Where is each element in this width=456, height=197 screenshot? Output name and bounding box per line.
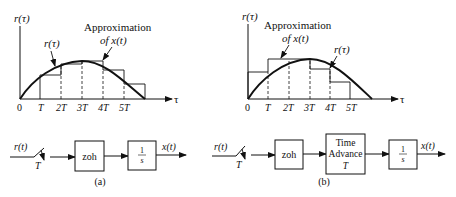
sampler-arrow [242, 149, 245, 159]
tick-0: 0 [245, 102, 250, 113]
input-label: r(t) [14, 141, 28, 153]
time-advance-line1: Time [336, 138, 356, 148]
diagram-canvas: r(τ) τ 0 T 2T 3T 4T 5T r(τ) Approximatio… [0, 0, 456, 197]
approx-label-line2: of x(t) [100, 34, 127, 47]
x-axis-label: τ [174, 93, 179, 105]
approx-label-arrow [103, 47, 112, 60]
panel-b-block-diagram: r(t) T zoh Time Advance T 1 s x(t) (b) [212, 134, 445, 188]
sample-period-label: T [35, 160, 42, 171]
approx-label-line2: of x(t) [282, 32, 309, 45]
approx-label-line1: Approximation [264, 19, 332, 31]
approx-label-arrow [281, 45, 289, 58]
tick-5: 5T [346, 102, 358, 113]
panel-b-plot: r(τ) τ 0 T 2T 3T 4T 5T Approximation of … [242, 10, 405, 113]
x-axis-label: τ [400, 93, 405, 105]
tick-1: T [265, 102, 272, 113]
output-label: x(t) [161, 141, 177, 153]
x-tick-labels: 0 T 2T 3T 4T 5T [245, 102, 358, 113]
curve-label: r(τ) [334, 43, 350, 56]
tick-5: 5T [119, 102, 131, 113]
input-label: r(t) [214, 141, 228, 153]
tick-4: 4T [98, 102, 110, 113]
time-advance-line2: Advance [329, 149, 363, 159]
tick-4: 4T [325, 102, 337, 113]
panel-a-plot: r(τ) τ 0 T 2T 3T 4T 5T r(τ) Approximatio… [14, 12, 179, 113]
sample-gridlines [61, 61, 124, 99]
sampler-arrow [41, 150, 44, 160]
integrator-denominator: s [140, 156, 143, 165]
r-tau-curve [20, 61, 145, 99]
tick-3: 3T [76, 102, 89, 113]
curve-label: r(τ) [44, 37, 60, 50]
sample-period-label: T [236, 159, 243, 170]
zoh-label: zoh [282, 149, 296, 160]
curve-label-arrow [51, 51, 55, 66]
sample-gridlines [268, 59, 330, 99]
advanced-staircase [248, 59, 350, 99]
tick-2: 2T [56, 102, 68, 113]
tick-2: 2T [283, 102, 295, 113]
zoh-label: zoh [82, 151, 96, 162]
caption-a: (a) [94, 176, 105, 188]
tick-1: T [38, 102, 45, 113]
integrator-numerator: 1 [401, 145, 405, 154]
panel-a-block-diagram: r(t) T zoh 1 s x(t) (a) [10, 141, 186, 188]
integrator-numerator: 1 [140, 146, 144, 155]
approx-label-line1: Approximation [84, 21, 152, 33]
y-axis-label: r(τ) [242, 10, 258, 23]
output-label: x(t) [420, 140, 436, 152]
caption-b: (b) [318, 176, 330, 188]
integrator-denominator: s [401, 155, 404, 164]
tick-0: 0 [17, 102, 22, 113]
x-tick-labels: 0 T 2T 3T 4T 5T [17, 102, 131, 113]
time-advance-line3: T [343, 161, 349, 171]
y-axis-label: r(τ) [14, 12, 30, 25]
tick-3: 3T [303, 102, 316, 113]
